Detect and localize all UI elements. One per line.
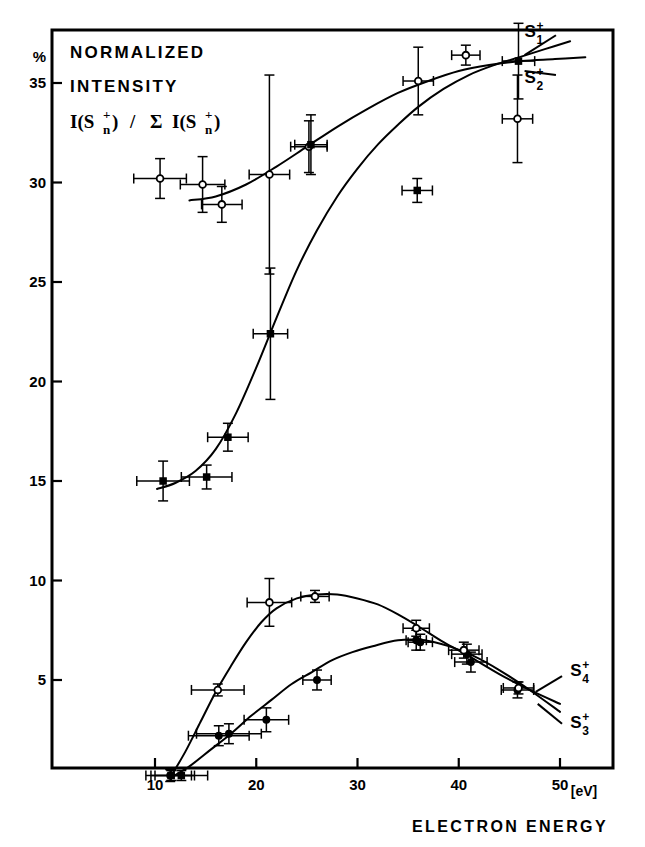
datapoint (202, 186, 243, 222)
marker-filled-circle (468, 659, 474, 665)
marker-open-circle (460, 647, 467, 654)
formula-slash: / (129, 111, 136, 132)
series-label-subscript: 3 (582, 724, 589, 738)
x-tick-label-30: 30 (349, 776, 366, 793)
x-axis-tick-labels: 1020304050 (147, 776, 569, 793)
datapoint (403, 620, 429, 636)
y-axis-unit-label: % (33, 48, 46, 65)
S4+-leader (536, 676, 562, 692)
series-labels-layer: S1+S2+S3+S4+ (525, 19, 590, 738)
marker-open-circle (462, 52, 469, 59)
chart-heading-line2: INTENSITY (70, 77, 179, 96)
datapoint (452, 45, 480, 65)
datapoint (197, 724, 262, 744)
datapoint (208, 423, 249, 451)
formula-close-2: ) (214, 111, 220, 133)
formula-open-2: I(S (172, 111, 196, 133)
chart-heading-line1: NORMALIZED (70, 43, 205, 62)
series-S1+ (146, 630, 534, 781)
marker-open-circle (199, 181, 206, 188)
marker-filled-square (267, 331, 273, 337)
marker-filled-square (178, 773, 184, 779)
data-points-layer (134, 23, 535, 781)
formula-open-1: I(S (70, 111, 94, 133)
y-tick-label-5: 5 (38, 671, 46, 688)
formula-sup-1: + (103, 107, 110, 122)
datapoint (137, 461, 190, 501)
marker-filled-circle (417, 639, 423, 645)
y-tick-label-10: 10 (29, 572, 46, 589)
y-tick-label-30: 30 (29, 174, 46, 191)
datapoint (503, 682, 533, 694)
x-axis-unit-label: [eV] (571, 783, 597, 799)
series-S4+ (191, 579, 533, 696)
marker-filled-square (160, 478, 166, 484)
x-tick-label-50: 50 (552, 776, 569, 793)
marker-open-circle (266, 599, 273, 606)
marker-filled-square (204, 474, 210, 480)
y-tick-label-20: 20 (29, 373, 46, 390)
datapoint (247, 579, 292, 627)
fitted-curves (157, 41, 585, 777)
datapoint (191, 684, 244, 696)
series-label-base: S (525, 22, 536, 41)
marker-open-circle (514, 115, 521, 122)
datapoint (253, 268, 287, 399)
series-label-base: S (570, 713, 581, 732)
series-label-superscript: + (582, 710, 589, 724)
marker-open-circle (312, 593, 319, 600)
series-label-subscript: 2 (537, 79, 544, 93)
series-S2+ (134, 45, 533, 274)
datapoint (249, 75, 290, 274)
S1+-sigmoid-curve (157, 41, 570, 489)
series-label-superscript: + (537, 19, 544, 33)
series-label-subscript: 4 (582, 672, 589, 686)
S3+-hump-curve (171, 639, 560, 777)
plot-frame (52, 30, 613, 768)
series-leader-lines (525, 35, 562, 724)
marker-open-circle (266, 171, 273, 178)
marker-filled-square (308, 142, 314, 148)
marker-open-circle (413, 625, 420, 632)
x-tick-label-40: 40 (450, 776, 467, 793)
y-axis-tick-labels: 5101520253035 (29, 74, 46, 688)
marker-filled-square (225, 434, 231, 440)
y-tick-label-25: 25 (29, 273, 46, 290)
series-label-superscript: + (582, 658, 589, 672)
series-label-subscript: 1 (537, 33, 544, 47)
x-axis-title: ELECTRON ENERGY (412, 818, 608, 835)
datapoint (502, 75, 532, 163)
marker-filled-square (414, 187, 420, 193)
x-tick-label-20: 20 (248, 776, 265, 793)
marker-open-circle (157, 175, 164, 182)
marker-open-circle (515, 685, 522, 692)
datapoint (295, 115, 327, 175)
marker-open-circle (218, 201, 225, 208)
datapoint (402, 179, 432, 203)
marker-filled-circle (314, 677, 320, 683)
marker-open-circle (415, 78, 422, 85)
y-tick-label-15: 15 (29, 472, 46, 489)
formula-sigma: Σ (150, 111, 162, 132)
datapoint (403, 47, 433, 115)
normalization-formula: I(S n + ) / Σ I(S n + ) (70, 107, 220, 137)
formula-sup-2: + (205, 107, 212, 122)
series-label-base: S (525, 68, 536, 87)
datapoint (134, 159, 187, 199)
series-label-S1+: S1+ (525, 19, 544, 47)
S3+-leader (538, 704, 562, 724)
formula-sub-1: n (103, 122, 111, 137)
series-label-base: S (570, 661, 581, 680)
normalized-intensity-chart: 5101520253035 1020304050 % [eV] NORMALIZ… (0, 0, 645, 847)
figure-canvas: 5101520253035 1020304050 % [eV] NORMALIZ… (0, 0, 645, 847)
datapoint (303, 670, 331, 690)
marker-open-circle (214, 687, 221, 694)
series-S3+ (137, 23, 535, 780)
series-label-superscript: + (537, 65, 544, 79)
series-label-S4+: S4+ (570, 658, 589, 686)
formula-close-1: ) (112, 111, 118, 133)
series-label-S2+: S2+ (525, 65, 544, 93)
datapoint (301, 590, 329, 602)
formula-sub-2: n (205, 122, 213, 137)
marker-filled-circle (226, 731, 232, 737)
